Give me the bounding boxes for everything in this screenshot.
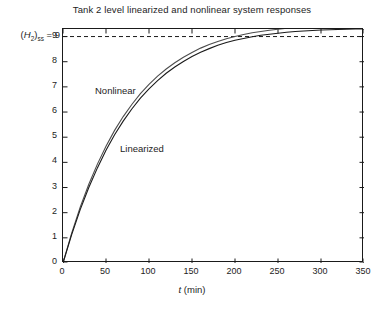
y-tick-marks bbox=[63, 37, 364, 263]
y-tick-label-8: 8 bbox=[52, 55, 57, 65]
x-axis-title: t (min) bbox=[0, 284, 384, 295]
nonlinear-curve-label: Nonlinear bbox=[95, 85, 136, 96]
y-tick-label-5: 5 bbox=[52, 130, 57, 140]
x-tick-label-150: 150 bbox=[171, 266, 211, 276]
nonlinear-curve bbox=[63, 29, 364, 263]
y-tick-label-7: 7 bbox=[52, 80, 57, 90]
x-tick-label-200: 200 bbox=[214, 266, 254, 276]
y-tick-label-9: 9 bbox=[52, 30, 57, 40]
y-tick-label-1: 1 bbox=[52, 231, 57, 241]
y-tick-label-4: 4 bbox=[52, 155, 57, 165]
y-tick-label-2: 2 bbox=[52, 206, 57, 216]
linearized-curve-label: Linearized bbox=[120, 143, 164, 154]
x-tick-label-100: 100 bbox=[128, 266, 168, 276]
x-tick-label-350: 350 bbox=[343, 266, 383, 276]
x-tick-label-300: 300 bbox=[300, 266, 340, 276]
y-tick-label-3: 3 bbox=[52, 181, 57, 191]
x-tick-label-50: 50 bbox=[85, 266, 125, 276]
plot-area bbox=[62, 28, 363, 262]
plot-svg bbox=[63, 29, 364, 263]
x-tick-label-250: 250 bbox=[257, 266, 297, 276]
x-axis-units: (min) bbox=[181, 284, 205, 295]
x-tick-label-0: 0 bbox=[42, 266, 82, 276]
steady-state-symbol: H bbox=[24, 29, 31, 40]
y-tick-label-6: 6 bbox=[52, 105, 57, 115]
figure-canvas: Tank 2 level linearized and nonlinear sy… bbox=[0, 0, 384, 312]
chart-title: Tank 2 level linearized and nonlinear sy… bbox=[0, 4, 384, 15]
y-tick-label-0: 0 bbox=[52, 256, 57, 266]
